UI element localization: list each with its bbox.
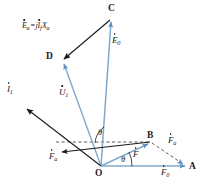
label-If-subscript: f bbox=[40, 24, 42, 31]
vector-E0 bbox=[101, 22, 111, 166]
vector-Ea bbox=[64, 20, 110, 59]
angle-label-theta-lower: θ bbox=[121, 155, 125, 164]
angle-label-theta-upper: θ bbox=[98, 128, 102, 137]
label-U1-subscript: 1 bbox=[65, 91, 68, 98]
label-I1: I1 bbox=[7, 85, 13, 94]
vector-I1 bbox=[27, 109, 101, 166]
vertex-label-A: A bbox=[189, 162, 196, 172]
label-Fa-right: Fa bbox=[168, 136, 177, 145]
label-F0-subscript: 0 bbox=[166, 171, 169, 178]
label-E0: E0 bbox=[112, 36, 121, 45]
vertex-label-C: C bbox=[108, 4, 115, 14]
angle-arc-theta-lower bbox=[129, 152, 132, 166]
label-E0-subscript: 0 bbox=[117, 39, 120, 46]
label-F: F bbox=[133, 150, 139, 159]
label-F-symbol: F bbox=[133, 150, 139, 159]
label-Fa-left: Fa bbox=[49, 152, 58, 161]
label-Fa-right-subscript: a bbox=[173, 139, 176, 146]
vertex-label-B: B bbox=[147, 131, 153, 141]
label-Fa-left-subscript: a bbox=[54, 155, 57, 162]
vertex-label-D: D bbox=[46, 52, 53, 62]
vertex-label-O: O bbox=[95, 169, 102, 179]
label-Xa-subscript: a bbox=[47, 24, 50, 31]
vector-Fa-right-dashed bbox=[152, 143, 183, 164]
label-F0: F0 bbox=[161, 168, 170, 177]
label-U1: U1 bbox=[59, 88, 69, 97]
label-Ea-subscript: a bbox=[27, 24, 30, 31]
label-I1-subscript: 1 bbox=[10, 88, 13, 95]
label-Ea-expression: Ea=jIfXa bbox=[22, 22, 50, 30]
phasor-diagram-figure: C D B O A Ea=jIfXa E0 U1 I1 Fa Fa F F0 θ… bbox=[0, 0, 203, 190]
